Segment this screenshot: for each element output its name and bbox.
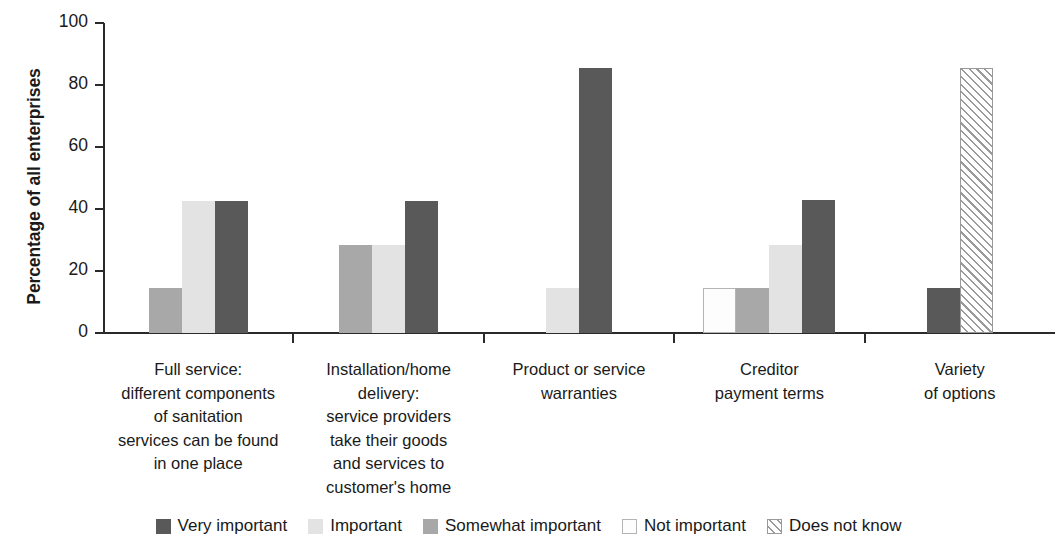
legend-label: Very important <box>178 516 288 536</box>
category-label-line: Full service: <box>103 358 293 382</box>
bar-very-important-group-1 <box>215 201 248 333</box>
bar-does-not-know-group-5 <box>960 68 993 333</box>
category-label-line: services can be found <box>103 429 293 453</box>
legend-item-very-important[interactable]: Very important <box>156 516 288 536</box>
category-label-line: different components <box>103 382 293 406</box>
bar-important-group-2 <box>372 245 405 333</box>
y-axis-tick-label: 60 <box>28 135 88 156</box>
swatch-does-not-know-icon <box>767 519 782 534</box>
category-label-line: Product or service <box>484 358 674 382</box>
category-label-line: and services to <box>293 452 483 476</box>
swatch-very-important-icon <box>156 519 171 534</box>
legend-item-somewhat-important[interactable]: Somewhat important <box>423 516 601 536</box>
x-axis-category-label-2: Installation/homedelivery:service provid… <box>293 358 483 499</box>
x-axis-category-label-1: Full service:different componentsof sani… <box>103 358 293 476</box>
category-label-line: Creditor <box>674 358 864 382</box>
bar-very-important-group-3 <box>579 68 612 333</box>
category-label-line: Installation/home <box>293 358 483 382</box>
bar-important-group-4 <box>769 245 802 333</box>
legend-item-not-important[interactable]: Not important <box>622 516 746 536</box>
y-axis-tick-label: 100 <box>28 11 88 32</box>
category-label-line: of options <box>865 382 1055 406</box>
x-axis-tick-mark <box>483 334 485 343</box>
category-label-line: in one place <box>103 452 293 476</box>
y-axis-tick-label: 0 <box>28 321 88 342</box>
bar-somewhat-important-group-4 <box>736 288 769 333</box>
legend-label: Somewhat important <box>445 516 601 536</box>
x-axis-category-label-4: Creditorpayment terms <box>674 358 864 405</box>
category-label-line: service providers <box>293 405 483 429</box>
category-label-line: warranties <box>484 382 674 406</box>
x-axis-tick-mark <box>864 334 866 343</box>
category-label-line: Variety <box>865 358 1055 382</box>
category-label-line: of sanitation <box>103 405 293 429</box>
y-axis-tick-label: 80 <box>28 73 88 94</box>
y-axis-title: Percentage of all enterprises <box>24 22 45 352</box>
x-axis-tick-mark <box>673 334 675 343</box>
category-label-line: take their goods <box>293 429 483 453</box>
bar-chart: Percentage of all enterprises 0204060801… <box>0 0 1057 542</box>
y-axis-tick-label: 40 <box>28 197 88 218</box>
bar-not-important-group-4 <box>703 288 736 333</box>
x-axis-tick-mark <box>292 334 294 343</box>
legend-label: Does not know <box>789 516 901 536</box>
swatch-somewhat-important-icon <box>423 519 438 534</box>
category-label-line: customer's home <box>293 476 483 500</box>
bar-very-important-group-2 <box>405 201 438 333</box>
legend-item-important[interactable]: Important <box>308 516 402 536</box>
bar-very-important-group-4 <box>802 200 835 333</box>
swatch-important-icon <box>308 519 323 534</box>
chart-legend: Very importantImportantSomewhat importan… <box>0 516 1057 536</box>
bar-very-important-group-5 <box>927 288 960 333</box>
bar-somewhat-important-group-2 <box>339 245 372 333</box>
x-axis-category-label-3: Product or servicewarranties <box>484 358 674 405</box>
legend-item-does-not-know[interactable]: Does not know <box>767 516 901 536</box>
bar-somewhat-important-group-1 <box>149 288 182 333</box>
bar-important-group-3 <box>546 288 579 333</box>
x-axis-category-label-5: Varietyof options <box>865 358 1055 405</box>
legend-label: Important <box>330 516 402 536</box>
swatch-not-important-icon <box>622 519 637 534</box>
bar-important-group-1 <box>182 201 215 333</box>
plot-area <box>103 23 1055 333</box>
y-axis-tick-label: 20 <box>28 259 88 280</box>
legend-label: Not important <box>644 516 746 536</box>
category-label-line: delivery: <box>293 382 483 406</box>
category-label-line: payment terms <box>674 382 864 406</box>
